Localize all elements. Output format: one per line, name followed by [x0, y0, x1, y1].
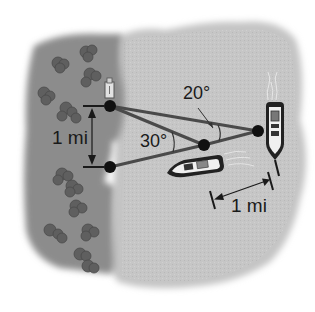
dot-far-boat: [252, 125, 264, 137]
land-area: [24, 34, 124, 274]
angle-20-label: 20°: [183, 84, 210, 102]
dot-near-boat: [198, 139, 210, 151]
diagram-stage: 1 mi 20° 30° 1 mi: [0, 0, 315, 312]
dot-shore-bottom: [104, 161, 116, 173]
dot-shore-top: [104, 100, 116, 112]
shore-distance-label: 1 mi: [52, 128, 88, 147]
diagram-canvas: [0, 0, 315, 312]
boat-distance-label: 1 mi: [231, 196, 267, 215]
angle-30-label: 30°: [140, 132, 167, 150]
